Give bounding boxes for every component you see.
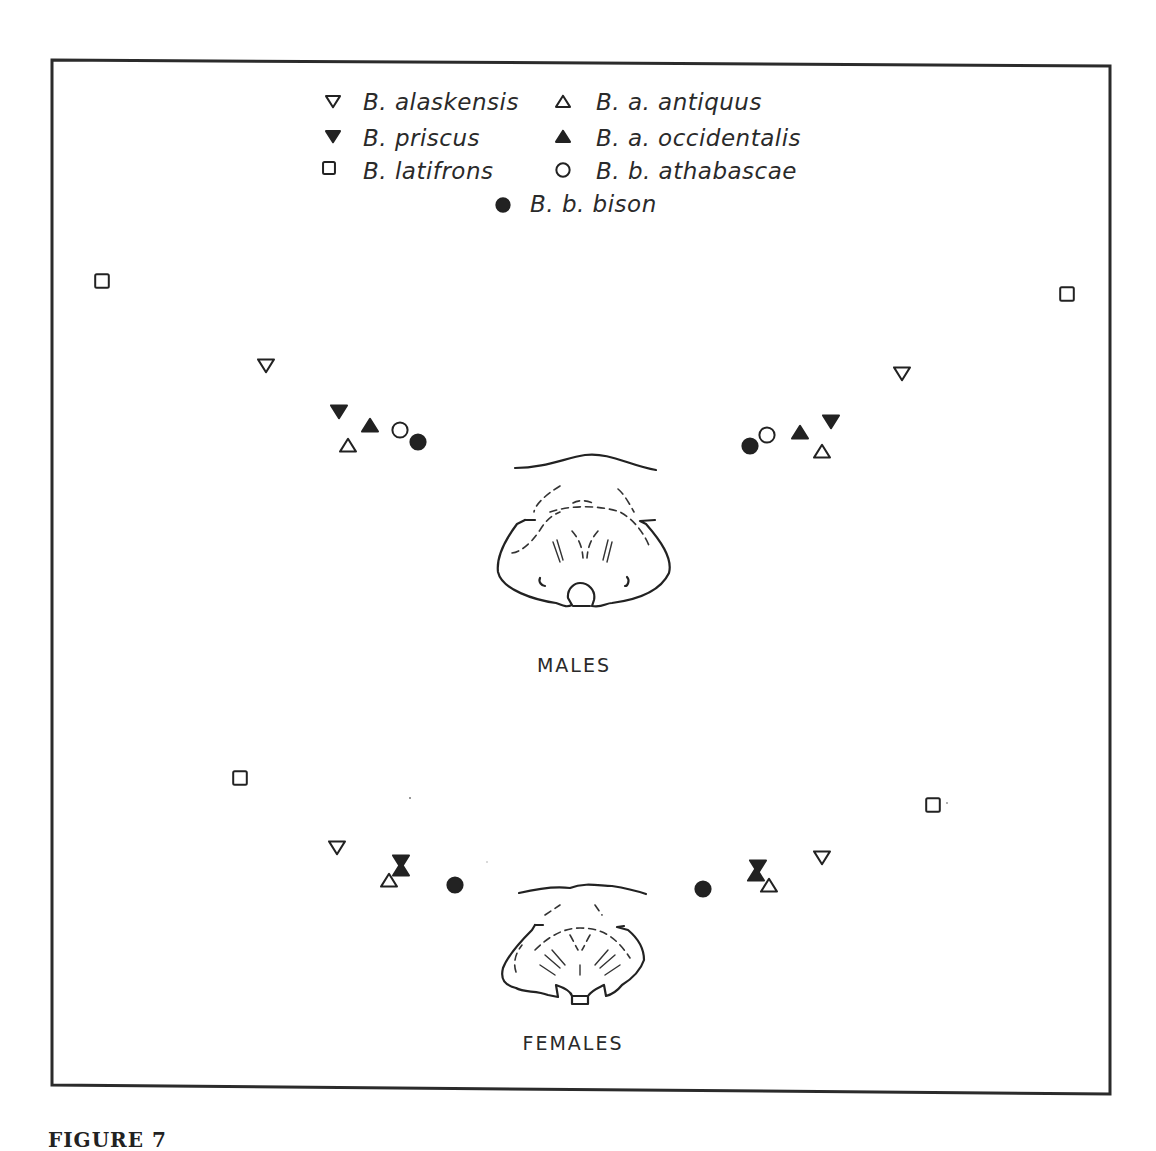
legend-label: B. a. occidentalis <box>596 125 801 151</box>
females-right-points <box>695 798 939 896</box>
data-points <box>95 274 1074 896</box>
legend-label: B. b. athabascae <box>596 158 797 184</box>
scan-speck <box>409 797 411 799</box>
scan-speck <box>486 861 488 863</box>
figure-caption: FIGURE 7 <box>48 1128 167 1151</box>
female-skull-drawing <box>502 885 646 1004</box>
data-point-circle-open-icon <box>392 422 407 437</box>
legend-label: B. latifrons <box>363 158 493 184</box>
data-point-square-open-icon <box>926 798 940 812</box>
legend-item: B. alaskensis <box>326 89 519 115</box>
data-point-circle-filled-icon <box>742 438 757 453</box>
females-left-points <box>233 771 462 892</box>
male-skull-drawing <box>498 455 670 607</box>
data-point-triangle-up-filled-icon <box>748 868 764 881</box>
scan-speck <box>946 802 948 804</box>
data-point-triangle-down-open-icon <box>814 851 830 864</box>
legend-item: B. b. bison <box>496 191 656 217</box>
males-right-points <box>742 287 1073 457</box>
data-point-circle-filled-icon <box>695 881 710 896</box>
data-point-triangle-up-filled-icon <box>792 426 808 439</box>
data-point-triangle-up-open-icon <box>340 439 356 452</box>
data-point-circle-filled-icon <box>410 434 425 449</box>
data-point-triangle-down-open-icon <box>894 367 910 380</box>
legend-item: B. a. occidentalis <box>556 125 801 151</box>
data-point-square-open-icon <box>233 771 247 785</box>
triangle-down-open-icon <box>326 96 340 107</box>
data-point-triangle-down-filled-icon <box>331 405 347 418</box>
legend-label: B. b. bison <box>530 191 657 217</box>
data-point-triangle-down-filled-icon <box>823 415 839 428</box>
data-point-triangle-down-open-icon <box>329 841 345 854</box>
legend-item: B. a. antiquus <box>556 89 762 115</box>
data-point-circle-open-icon <box>759 427 774 442</box>
data-point-square-open-icon <box>95 274 109 288</box>
legend-label: B. alaskensis <box>363 89 519 115</box>
data-point-triangle-up-filled-icon <box>393 863 409 876</box>
circle-open-icon <box>556 163 569 176</box>
square-open-icon <box>323 162 335 174</box>
males-label: MALES <box>537 654 611 676</box>
data-point-triangle-up-filled-icon <box>362 419 378 432</box>
triangle-up-open-icon <box>556 96 570 107</box>
females-label: FEMALES <box>523 1032 624 1054</box>
legend-item: B. latifrons <box>323 158 493 184</box>
legend-item: B. b. athabascae <box>556 158 797 184</box>
males-left-points <box>95 274 425 451</box>
data-point-circle-filled-icon <box>447 877 462 892</box>
legend-label: B. a. antiquus <box>596 89 762 115</box>
data-point-square-open-icon <box>1060 287 1074 301</box>
legend: B. alaskensisB. a. antiquusB. priscusB. … <box>323 89 801 217</box>
circle-filled-icon <box>496 198 509 211</box>
data-point-triangle-up-open-icon <box>814 445 830 458</box>
legend-item: B. priscus <box>326 125 480 151</box>
triangle-down-filled-icon <box>326 131 340 142</box>
triangle-up-filled-icon <box>556 131 570 142</box>
data-point-triangle-down-open-icon <box>258 359 274 372</box>
legend-label: B. priscus <box>363 125 480 151</box>
